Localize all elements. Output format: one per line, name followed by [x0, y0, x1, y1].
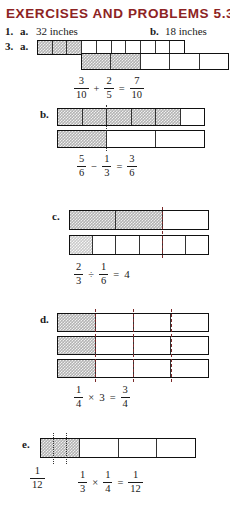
bar-cell	[171, 314, 208, 331]
part-a-label: a.	[20, 40, 28, 52]
bar-cell	[58, 131, 107, 147]
fraction: 2 5	[104, 76, 113, 100]
bar-cell	[82, 54, 111, 69]
subdivision-guide	[66, 433, 67, 464]
fraction-denominator: 5	[104, 88, 113, 101]
part-e-label: e.	[22, 438, 30, 450]
part-e-bar-1	[40, 438, 196, 458]
bar-cell	[134, 360, 172, 377]
fraction-numerator: 2	[104, 76, 113, 88]
fraction-denominator: 4	[121, 397, 130, 410]
alignment-guide	[133, 309, 134, 382]
answer-row-1: 1. a. 32 inches b. 18 inches	[0, 25, 230, 40]
bar-cell	[70, 236, 93, 254]
bar-cell	[58, 314, 96, 331]
bar-cell	[116, 236, 139, 254]
operator: =	[116, 161, 122, 172]
fraction: 2 3	[74, 262, 83, 286]
alignment-guide	[106, 105, 107, 151]
fraction-numerator: 7	[132, 76, 141, 88]
fraction-numerator: 1	[131, 470, 140, 482]
bar-cell	[38, 41, 53, 54]
bar-cell	[80, 439, 119, 457]
problem-1-number: 1.	[5, 25, 13, 37]
bar-cell	[41, 439, 80, 457]
bar-cell	[96, 314, 134, 331]
fraction-numerator: 1	[74, 385, 83, 397]
bar-cell	[156, 131, 204, 147]
bar-cell	[107, 109, 132, 125]
fraction-numerator: 3	[121, 385, 130, 397]
part-b-bar-2	[57, 130, 205, 148]
operator: =	[113, 269, 119, 280]
whole-number: 3	[99, 391, 105, 403]
fraction: 1 3	[78, 470, 87, 494]
alignment-guide	[95, 309, 96, 382]
fraction-denominator: 3	[78, 482, 87, 495]
fraction-denominator: 6	[99, 274, 108, 287]
fraction-denominator: 10	[74, 88, 89, 101]
part-c-bar-2	[69, 235, 209, 255]
part-c-equation: 2 3 ÷ 1 6 = 4	[72, 262, 132, 286]
operator: ÷	[88, 269, 94, 280]
problem-1-part-b-value: 18 inches	[165, 25, 207, 37]
fraction: 3 6	[127, 154, 136, 178]
fraction-numerator: 2	[74, 262, 83, 274]
fraction-denominator: 6	[127, 166, 136, 179]
fraction-denominator: 12	[30, 478, 45, 491]
bar-cell	[116, 211, 162, 229]
bar-cell	[67, 41, 82, 54]
fraction-denominator: 3	[74, 274, 83, 287]
fraction: 3 4	[121, 385, 130, 409]
bar-cell	[186, 236, 208, 254]
fraction-denominator: 4	[103, 482, 112, 495]
fraction: 7 10	[130, 76, 145, 100]
fraction: 3 10	[74, 76, 89, 100]
bar-cell	[181, 109, 205, 125]
part-b-label: b.	[40, 108, 49, 120]
part-b-bar-1	[57, 108, 205, 126]
subdivision-guide	[53, 433, 54, 464]
bar-cell	[93, 236, 116, 254]
bar-cell	[111, 54, 140, 69]
fraction: 5 6	[77, 154, 86, 178]
bar-cell	[171, 337, 208, 354]
fraction-numerator: 1	[33, 466, 42, 478]
bar-cell	[163, 236, 186, 254]
fraction-numerator: 3	[127, 154, 136, 166]
problem-3-part-b: b. 5 6 − 1 3 = 3	[0, 108, 230, 180]
page-title: EXERCISES AND PROBLEMS 5.3	[0, 0, 230, 21]
operator: −	[91, 161, 97, 172]
part-a-bar-2	[81, 53, 229, 70]
fraction-numerator: 1	[102, 154, 111, 166]
part-e-equation: 1 3 × 1 4 = 1 12	[76, 470, 145, 494]
operator: ×	[92, 477, 98, 488]
bar-cell	[58, 360, 96, 377]
fraction: 1 3	[102, 154, 111, 178]
bar-cell	[70, 211, 116, 229]
alignment-guide	[162, 207, 163, 258]
bar-cell	[171, 360, 208, 377]
fraction-numerator: 1	[103, 470, 112, 482]
bar-cell	[140, 236, 163, 254]
fraction-numerator: 1	[99, 262, 108, 274]
bar-cell	[134, 314, 172, 331]
operator: +	[94, 83, 100, 94]
fraction-denominator: 12	[128, 482, 143, 495]
bar-cell	[170, 54, 199, 69]
fraction: 1 6	[99, 262, 108, 286]
bar-cell	[58, 337, 96, 354]
fraction: 1 12	[30, 466, 45, 490]
bar-cell	[58, 109, 83, 125]
operator: ×	[88, 392, 94, 403]
fraction: 1 4	[74, 385, 83, 409]
bar-cell	[141, 54, 170, 69]
part-d-equation: 1 4 × 3 = 3 4	[72, 385, 132, 409]
part-b-equation: 5 6 − 1 3 = 3 6	[75, 154, 139, 178]
bar-cell	[83, 109, 108, 125]
bar-cell	[163, 211, 208, 229]
problem-3-number: 3.	[5, 40, 13, 52]
fraction-numerator: 1	[78, 470, 87, 482]
fraction: 1 12	[128, 470, 143, 494]
part-d-label: d.	[40, 313, 49, 325]
